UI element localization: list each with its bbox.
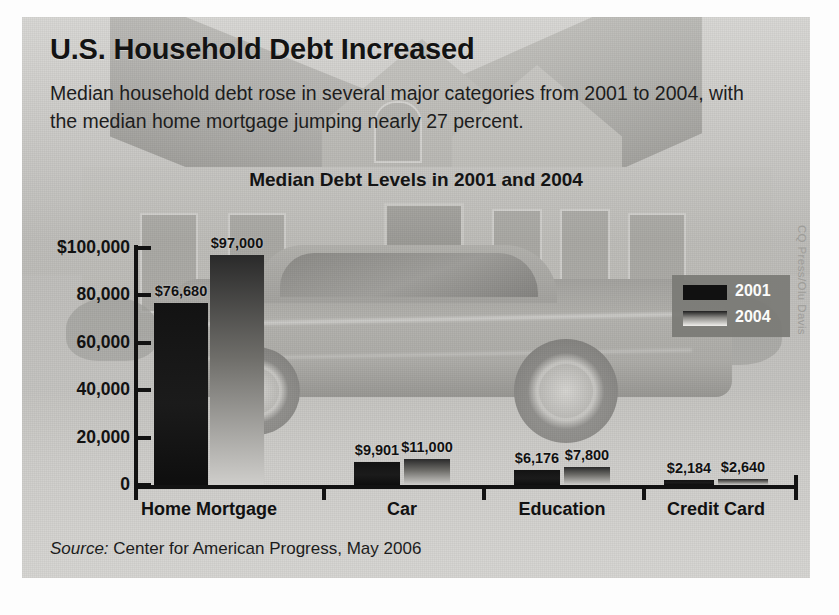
bar-home-mortgage-2004 (210, 255, 264, 485)
source-note: Source: Center for American Progress, Ma… (50, 539, 421, 559)
bar-car-2001 (354, 462, 400, 485)
photo-credit: CQ Press/Olu Davis (796, 225, 808, 335)
infographic-page: U.S. Household Debt Increased Median hou… (0, 0, 839, 615)
bar-home-mortgage-2001 (154, 303, 208, 485)
category-label: Car (332, 499, 472, 520)
x-tick (322, 489, 326, 500)
source-value: Center for American Progress, May 2006 (109, 539, 422, 558)
value-label: $2,184 (667, 460, 711, 476)
chart-legend: 2001 2004 (672, 275, 790, 337)
bar-credit-card-2004 (718, 479, 768, 485)
bar-credit-card-2001 (664, 480, 714, 485)
infographic-panel: U.S. Household Debt Increased Median hou… (22, 17, 810, 578)
value-label: $2,640 (721, 459, 765, 475)
value-label: $97,000 (211, 235, 263, 251)
legend-label-2004: 2004 (735, 308, 771, 326)
value-label: $9,901 (355, 442, 399, 458)
value-label: $7,800 (565, 447, 609, 463)
legend-swatch-2001 (683, 285, 727, 300)
bar-car-2004 (404, 459, 450, 485)
value-label: $11,000 (401, 439, 453, 455)
legend-swatch-2004 (683, 311, 727, 326)
bar-chart: $100,00080,00060,00040,00020,0000 $76,68… (22, 17, 810, 578)
bar-education-2004 (564, 467, 610, 485)
source-label: Source: (50, 539, 109, 558)
legend-label-2001: 2001 (735, 282, 771, 300)
category-label: Credit Card (621, 499, 810, 520)
value-label: $6,176 (515, 450, 559, 466)
bars-layer (22, 17, 810, 489)
value-label: $76,680 (155, 283, 207, 299)
bar-education-2001 (514, 470, 560, 485)
category-label: Home Mortgage (99, 499, 319, 520)
